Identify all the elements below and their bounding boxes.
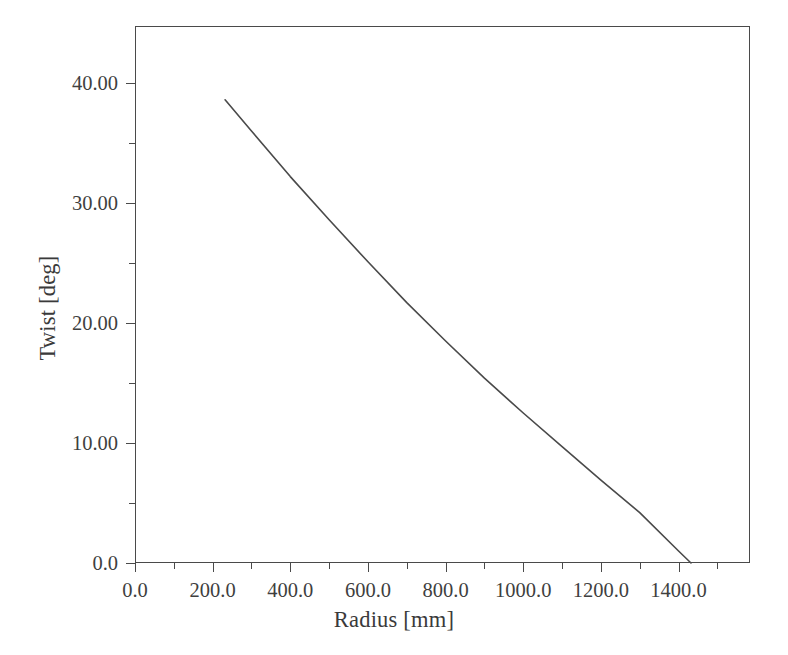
x-tick-minor xyxy=(174,563,175,569)
x-tick-minor xyxy=(251,563,252,569)
x-tick-minor xyxy=(562,563,563,569)
x-tick-label: 200.0 xyxy=(190,580,236,601)
x-tick-major xyxy=(368,563,369,572)
x-tick-major xyxy=(446,563,447,572)
y-tick-label: 40.00 xyxy=(0,73,118,94)
y-tick-major xyxy=(126,443,135,444)
y-tick-label: 10.00 xyxy=(0,433,118,454)
x-tick-label: 800.0 xyxy=(423,580,469,601)
x-tick-major xyxy=(679,563,680,572)
plot-canvas xyxy=(135,26,750,563)
y-tick-major xyxy=(126,83,135,84)
x-tick-minor xyxy=(640,563,641,569)
y-tick-label: 0.0 xyxy=(0,553,118,574)
x-tick-minor xyxy=(717,563,718,569)
x-tick-minor xyxy=(329,563,330,569)
x-tick-major xyxy=(213,563,214,572)
y-tick-minor xyxy=(129,503,135,504)
x-tick-label: 0.0 xyxy=(122,580,148,601)
x-tick-label: 400.0 xyxy=(267,580,313,601)
x-tick-major xyxy=(523,563,524,572)
x-tick-label: 1000.0 xyxy=(495,580,551,601)
x-tick-major xyxy=(135,563,136,572)
y-tick-major xyxy=(126,203,135,204)
y-tick-major xyxy=(126,563,135,564)
y-tick-major xyxy=(126,323,135,324)
x-tick-label: 600.0 xyxy=(345,580,391,601)
y-axis-title: Twist [deg] xyxy=(35,198,61,418)
x-tick-minor xyxy=(407,563,408,569)
x-axis-title: Radius [mm] xyxy=(0,607,788,633)
x-tick-label: 1400.0 xyxy=(650,580,706,601)
chart-figure: 0.010.0020.0030.0040.00 0.0200.0400.0600… xyxy=(0,0,788,655)
y-tick-minor xyxy=(129,263,135,264)
x-tick-major xyxy=(290,563,291,572)
x-tick-label: 1200.0 xyxy=(573,580,629,601)
x-tick-minor xyxy=(484,563,485,569)
data-series-twist xyxy=(225,100,691,563)
y-tick-minor xyxy=(129,383,135,384)
x-tick-major xyxy=(601,563,602,572)
y-tick-minor xyxy=(129,143,135,144)
